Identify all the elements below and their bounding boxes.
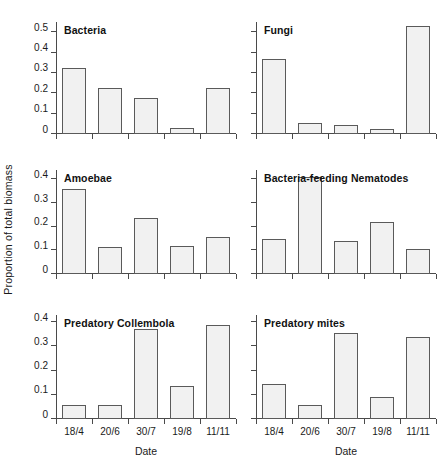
y-tick bbox=[251, 321, 256, 322]
y-axis-line bbox=[256, 22, 257, 134]
x-tick bbox=[92, 134, 93, 139]
panel-bacteria: 00.10.20.30.40.5Bacteria bbox=[56, 22, 236, 134]
panel-bacteria-feeding-nematodes: Bacteria-feeding Nematodes bbox=[256, 170, 436, 274]
x-tick-label: 11/11 bbox=[206, 426, 230, 437]
bar bbox=[134, 218, 158, 274]
figure-multi-panel-bar-charts: Proportion of total biomass 00.10.20.30.… bbox=[0, 0, 446, 459]
x-tick bbox=[436, 274, 437, 279]
x-tick bbox=[128, 274, 129, 279]
y-tick-label: 0.4 bbox=[34, 311, 48, 322]
y-tick-label: 0.3 bbox=[34, 335, 48, 346]
x-axis-title: Date bbox=[135, 445, 157, 457]
y-tick bbox=[51, 249, 56, 250]
bar bbox=[206, 325, 230, 419]
panel-title: Predatory Collembola bbox=[64, 317, 175, 329]
bar bbox=[262, 239, 286, 274]
y-tick bbox=[51, 202, 56, 203]
y-axis-line bbox=[56, 170, 57, 274]
bar bbox=[298, 177, 322, 274]
y-tick bbox=[51, 31, 56, 32]
x-tick bbox=[236, 419, 237, 424]
x-tick bbox=[328, 419, 329, 424]
x-axis-title: Date bbox=[335, 445, 357, 457]
x-tick-label: 18/4 bbox=[264, 426, 283, 437]
bar bbox=[206, 88, 230, 134]
plot-area: 00.10.20.30.40.5Bacteria bbox=[56, 22, 236, 134]
bar bbox=[62, 189, 86, 274]
x-tick-label: 30/7 bbox=[136, 426, 155, 437]
y-tick bbox=[251, 370, 256, 371]
y-tick-label: 0.1 bbox=[34, 384, 48, 395]
y-tick bbox=[51, 178, 56, 179]
x-tick bbox=[92, 274, 93, 279]
panel-title: Fungi bbox=[264, 24, 293, 36]
y-tick bbox=[51, 92, 56, 93]
y-axis-line bbox=[56, 315, 57, 419]
y-axis-line bbox=[56, 22, 57, 134]
bar bbox=[262, 59, 286, 134]
x-tick-label: 18/4 bbox=[64, 426, 83, 437]
bar bbox=[206, 237, 230, 274]
bar bbox=[98, 88, 122, 134]
y-tick-label: 0.1 bbox=[34, 103, 48, 114]
plot-area: Bacteria-feeding Nematodes bbox=[256, 170, 436, 274]
x-tick bbox=[164, 134, 165, 139]
bar bbox=[298, 123, 322, 134]
bar bbox=[170, 128, 194, 134]
y-tick bbox=[251, 394, 256, 395]
x-tick bbox=[164, 274, 165, 279]
y-tick bbox=[51, 321, 56, 322]
y-tick-label: 0.4 bbox=[34, 42, 48, 53]
bar bbox=[334, 125, 358, 134]
panel-predatory-collembola: 00.10.20.30.418/420/630/719/811/11Predat… bbox=[56, 315, 236, 419]
y-tick bbox=[51, 370, 56, 371]
panel-title: Amoebae bbox=[64, 172, 112, 184]
bar bbox=[134, 329, 158, 419]
y-tick bbox=[251, 178, 256, 179]
y-tick bbox=[251, 202, 256, 203]
y-tick-label: 0.2 bbox=[34, 216, 48, 227]
y-tick bbox=[51, 226, 56, 227]
y-tick-label: 0 bbox=[42, 263, 48, 274]
bar bbox=[98, 405, 122, 419]
x-tick bbox=[56, 274, 57, 279]
bar bbox=[134, 98, 158, 134]
x-tick bbox=[92, 419, 93, 424]
x-tick bbox=[328, 134, 329, 139]
panel-amoebae: 00.10.20.30.4Amoebae bbox=[56, 170, 236, 274]
x-tick bbox=[128, 419, 129, 424]
y-tick bbox=[51, 113, 56, 114]
y-tick-label: 0.3 bbox=[34, 62, 48, 73]
panel-predatory-mites: 18/420/630/719/811/11Predatory mitesDate bbox=[256, 315, 436, 419]
x-tick bbox=[256, 134, 257, 139]
plot-area: 00.10.20.30.4Amoebae bbox=[56, 170, 236, 274]
x-tick bbox=[364, 274, 365, 279]
x-tick-label: 19/8 bbox=[172, 426, 191, 437]
plot-area: 18/420/630/719/811/11Predatory mites bbox=[256, 315, 436, 419]
y-tick bbox=[251, 345, 256, 346]
y-tick-label: 0 bbox=[42, 408, 48, 419]
x-tick bbox=[400, 274, 401, 279]
y-tick bbox=[251, 226, 256, 227]
y-tick-label: 0.5 bbox=[34, 21, 48, 32]
bar bbox=[406, 249, 430, 274]
x-tick bbox=[200, 134, 201, 139]
y-tick-label: 0.3 bbox=[34, 192, 48, 203]
x-tick bbox=[256, 274, 257, 279]
y-tick bbox=[251, 249, 256, 250]
x-tick bbox=[364, 134, 365, 139]
x-tick bbox=[436, 419, 437, 424]
y-tick bbox=[251, 52, 256, 53]
x-tick bbox=[164, 419, 165, 424]
y-tick bbox=[251, 92, 256, 93]
y-axis-title: Proportion of total biomass bbox=[0, 0, 16, 459]
x-tick-label: 20/6 bbox=[300, 426, 319, 437]
bar bbox=[406, 26, 430, 134]
y-tick bbox=[51, 345, 56, 346]
bar bbox=[62, 405, 86, 419]
y-tick-label: 0.2 bbox=[34, 82, 48, 93]
x-tick bbox=[328, 274, 329, 279]
x-tick bbox=[292, 274, 293, 279]
bar bbox=[62, 68, 86, 134]
x-tick-label: 30/7 bbox=[336, 426, 355, 437]
